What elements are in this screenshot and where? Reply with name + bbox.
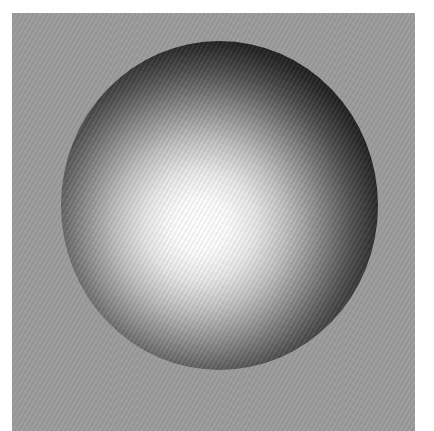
shaded-sphere bbox=[61, 41, 378, 370]
image-canvas bbox=[0, 0, 434, 431]
